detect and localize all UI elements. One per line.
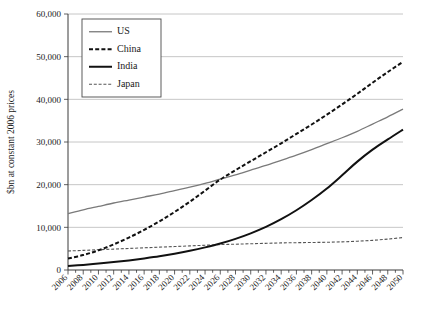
line-chart: 010,00020,00030,00040,00050,00060,000 20…: [0, 0, 422, 317]
chart-legend[interactable]: USChinaIndiaJapan: [82, 19, 161, 97]
chart-container: 010,00020,00030,00040,00050,00060,000 20…: [0, 0, 422, 317]
legend-label-us: US: [117, 25, 130, 36]
y-tick-label: 20,000: [36, 180, 61, 190]
y-axis-title: $bn at constant 2006 prices: [6, 90, 16, 194]
y-tick-label: 30,000: [36, 137, 61, 147]
series-line-us: [68, 109, 403, 214]
y-axis-tick-labels: 010,00020,00030,00040,00050,00060,000: [36, 9, 61, 275]
x-tick-label: 2050: [385, 272, 405, 292]
legend-label-china: China: [117, 43, 141, 54]
y-axis-title-text: $bn at constant 2006 prices: [6, 90, 16, 194]
y-tick-label: 10,000: [36, 223, 61, 233]
y-tick-label: 40,000: [36, 95, 61, 105]
series-line-india: [68, 130, 403, 266]
legend-label-india: India: [117, 60, 138, 71]
y-tick-label: 60,000: [36, 9, 61, 19]
y-tick-label: 50,000: [36, 52, 61, 62]
legend-label-japan: Japan: [117, 78, 140, 89]
x-axis-tick-labels: 2006200820102012201420162018202020222024…: [50, 272, 405, 292]
